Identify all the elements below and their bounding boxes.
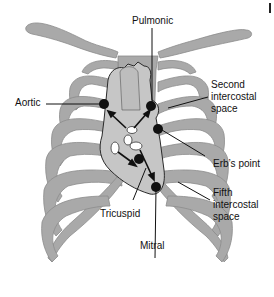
- label-second-intercostal: Second intercostal space: [211, 79, 257, 115]
- valve-1: [127, 127, 137, 134]
- left-clavicle: [26, 23, 118, 58]
- chest-diagram: [0, 0, 274, 297]
- valve-4: [111, 142, 119, 154]
- label-aortic: Aortic: [15, 97, 41, 109]
- tricuspid-point: [134, 154, 144, 164]
- right-rib-1: [158, 60, 196, 74]
- label-fifth-intercostal: Fifth intercostal space: [213, 187, 259, 223]
- valve-3: [130, 142, 142, 150]
- mitral-point: [151, 182, 161, 192]
- aortic-point: [99, 99, 109, 109]
- right-clavicle: [158, 30, 252, 58]
- aorta: [120, 67, 140, 110]
- corner-mark: [269, 3, 271, 13]
- label-tricuspid: Tricuspid: [100, 208, 140, 220]
- label-erbs-point: Erb’s point: [213, 158, 260, 170]
- pulmonic-point: [146, 101, 156, 111]
- erbs-point: [153, 124, 163, 134]
- label-mitral: Mitral: [140, 240, 164, 252]
- label-pulmonic: Pulmonic: [132, 15, 173, 27]
